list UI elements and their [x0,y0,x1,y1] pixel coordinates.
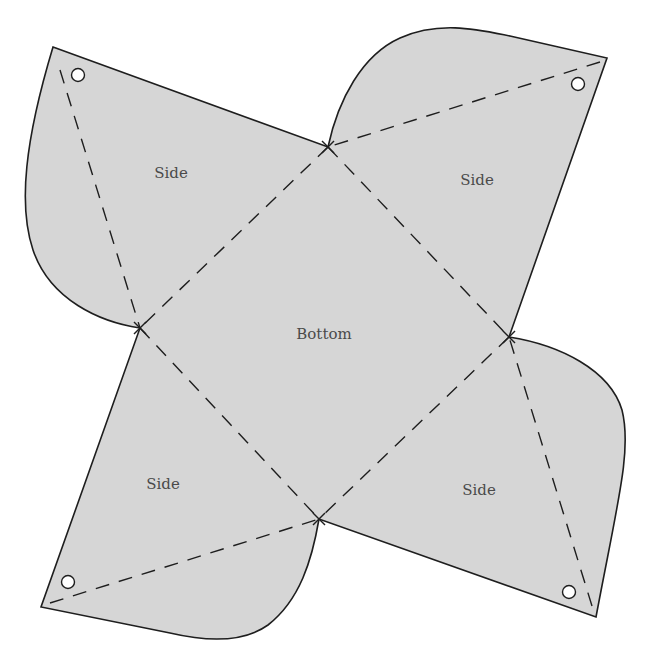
label-side-bottom-left: Side [146,475,180,493]
label-side-top-left: Side [154,164,188,182]
box-net-diagram: Bottom Side Side Side Side [0,0,647,659]
punch-hole-bottom-left [62,576,75,589]
label-bottom: Bottom [296,325,351,343]
punch-hole-top-right [572,78,585,91]
punch-hole-top-left [72,69,85,82]
label-side-bottom-right: Side [462,481,496,499]
label-side-top-right: Side [460,171,494,189]
punch-hole-bottom-right [563,586,576,599]
